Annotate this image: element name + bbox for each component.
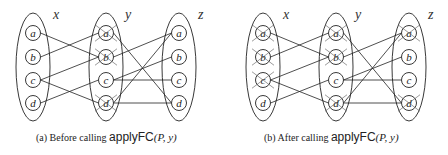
value-label: c [31, 74, 36, 86]
caption-b-args: (P, y) [376, 131, 399, 143]
caption-a-function: applyFC [109, 130, 154, 144]
value-label: a [176, 27, 182, 39]
value-label: b [406, 51, 412, 63]
variable-label-z: z [427, 7, 434, 22]
value-label: b [30, 51, 36, 63]
caption-b: (b) After calling applyFC(P, y) [264, 130, 399, 144]
value-label: b [176, 51, 182, 63]
value-label: a [30, 27, 36, 39]
edge-xc-yb [271, 57, 329, 80]
caption-a: (a) Before calling applyFC(P, y) [36, 130, 177, 144]
variable-label-z: z [197, 7, 204, 22]
value-label: c [334, 74, 339, 86]
edge-xc-yb [41, 57, 99, 80]
variable-label-y: y [123, 7, 132, 22]
variable-label-x: x [282, 7, 290, 22]
value-label: d [176, 97, 182, 109]
caption-b-prefix: (b) After calling [264, 132, 331, 143]
variable-label-x: x [52, 7, 60, 22]
variable-label-y: y [353, 7, 362, 22]
value-label: c [104, 74, 109, 86]
diagram-figure: xyzabcdabcdabcdxyzabcdabcdabcd [0, 0, 448, 125]
value-label: d [30, 97, 36, 109]
caption-b-function: applyFC [331, 130, 376, 144]
caption-a-prefix: (a) Before calling [36, 132, 109, 143]
caption-a-args: (P, y) [154, 131, 177, 143]
value-label: d [260, 97, 266, 109]
value-label: c [177, 74, 182, 86]
value-label: c [407, 74, 412, 86]
